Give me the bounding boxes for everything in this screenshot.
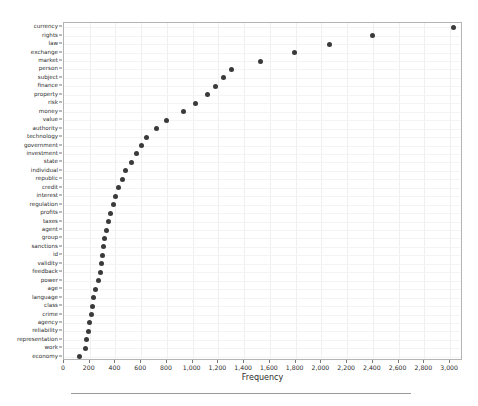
y-axis-tick-mark xyxy=(59,262,62,263)
y-axis-tick-mark xyxy=(59,144,62,145)
x-axis-tick-label: 3,000 xyxy=(440,364,458,372)
data-point xyxy=(91,295,96,300)
x-axis-tick-label: 800 xyxy=(160,364,172,372)
data-point xyxy=(84,337,89,342)
y-axis-tick-label: sanctions xyxy=(31,243,58,249)
data-point xyxy=(123,168,128,173)
y-axis-tick-label: finance xyxy=(37,82,58,88)
y-axis-tick-mark xyxy=(59,288,62,289)
y-axis-tick-label: class xyxy=(44,302,58,308)
data-point xyxy=(129,160,134,165)
gridline-horizontal xyxy=(64,137,461,138)
y-axis-tick-label: regulation xyxy=(30,201,58,207)
y-axis-tick-label: money xyxy=(39,108,58,114)
gridline-horizontal xyxy=(64,281,461,282)
data-point xyxy=(120,177,125,182)
data-point xyxy=(77,354,82,359)
x-axis-tick-mark xyxy=(63,360,64,363)
y-axis-tick-label: agency xyxy=(38,319,58,325)
y-axis-tick-label: language xyxy=(32,294,58,300)
gridline-horizontal xyxy=(64,154,461,155)
data-point xyxy=(104,228,109,233)
gridline-horizontal xyxy=(64,53,461,54)
gridline-horizontal xyxy=(64,323,461,324)
y-axis-tick-mark xyxy=(59,305,62,306)
gridline-horizontal xyxy=(64,146,461,147)
y-axis-tick-mark xyxy=(59,245,62,246)
gridline-vertical xyxy=(424,23,425,359)
gridline-horizontal xyxy=(64,348,461,349)
y-axis-tick-mark xyxy=(59,169,62,170)
data-point xyxy=(134,151,139,156)
y-axis-tick-mark xyxy=(59,43,62,44)
gridline-horizontal xyxy=(64,36,461,37)
y-axis-tick-mark xyxy=(59,119,62,120)
y-axis-tick-label: government xyxy=(24,142,58,148)
gridline-horizontal xyxy=(64,340,461,341)
x-axis-tick-mark xyxy=(140,360,141,363)
gridline-horizontal xyxy=(64,315,461,316)
x-axis-tick-label: 400 xyxy=(109,364,121,372)
gridline-vertical xyxy=(218,23,219,359)
gridline-horizontal xyxy=(64,27,461,28)
data-point xyxy=(100,253,105,258)
x-axis-tick-mark xyxy=(166,360,167,363)
footer-divider xyxy=(71,393,411,394)
gridline-horizontal xyxy=(64,289,461,290)
y-axis-tick-label: state xyxy=(44,158,58,164)
x-axis-tick-label: 1,400 xyxy=(234,364,252,372)
gridline-horizontal xyxy=(64,264,461,265)
gridline-horizontal xyxy=(64,238,461,239)
y-axis-tick-mark xyxy=(59,212,62,213)
x-axis-tick-label: 600 xyxy=(134,364,146,372)
y-axis-tick-mark xyxy=(59,178,62,179)
y-axis-tick-label: market xyxy=(38,57,58,63)
gridline-horizontal xyxy=(64,196,461,197)
gridline-horizontal xyxy=(64,255,461,256)
x-axis-tick-label: 200 xyxy=(83,364,95,372)
y-axis-tick-mark xyxy=(59,186,62,187)
y-axis-tick-label: group xyxy=(42,234,58,240)
data-point xyxy=(164,118,169,123)
y-axis-tick-label: individual xyxy=(31,167,58,173)
data-point xyxy=(327,42,332,47)
y-axis-tick-label: person xyxy=(39,65,58,71)
x-axis-tick-mark xyxy=(423,360,424,363)
y-axis-tick-label: risk xyxy=(48,99,58,105)
gridline-horizontal xyxy=(64,129,461,130)
x-axis-tick-label: 1,800 xyxy=(286,364,304,372)
x-axis-tick-mark xyxy=(217,360,218,363)
y-axis-tick-label: authority xyxy=(33,125,59,131)
gridline-horizontal xyxy=(64,331,461,332)
y-axis-tick-mark xyxy=(59,60,62,61)
data-point xyxy=(229,67,234,72)
y-axis-tick-label: credit xyxy=(42,184,58,190)
y-axis-tick-label: taxes xyxy=(43,218,58,224)
data-point xyxy=(154,126,159,131)
gridline-vertical xyxy=(167,23,168,359)
y-axis-tick-label: id xyxy=(53,251,58,257)
data-point xyxy=(98,270,103,275)
data-point xyxy=(87,320,92,325)
y-axis-tick-mark xyxy=(59,237,62,238)
y-axis-tick-label: economy xyxy=(32,353,58,359)
data-point xyxy=(258,59,263,64)
y-axis-tick-mark xyxy=(59,51,62,52)
y-axis-tick-mark xyxy=(59,152,62,153)
y-axis-tick-label: reliability xyxy=(32,327,58,333)
data-point xyxy=(116,185,121,190)
x-axis-tick-mark xyxy=(192,360,193,363)
data-point xyxy=(451,25,456,30)
y-axis-tick-mark xyxy=(59,203,62,204)
data-point xyxy=(181,109,186,114)
x-axis-tick-label: 2,800 xyxy=(415,364,433,372)
data-point xyxy=(144,135,149,140)
y-axis-tick-label: work xyxy=(44,344,58,350)
data-point xyxy=(99,261,104,266)
y-axis-tick-label: interest xyxy=(37,192,58,198)
y-axis-tick-mark xyxy=(59,279,62,280)
gridline-vertical xyxy=(296,23,297,359)
y-axis-tick-label: property xyxy=(34,91,58,97)
y-axis-tick-label: value xyxy=(43,116,58,122)
y-axis-tick-mark xyxy=(59,85,62,86)
